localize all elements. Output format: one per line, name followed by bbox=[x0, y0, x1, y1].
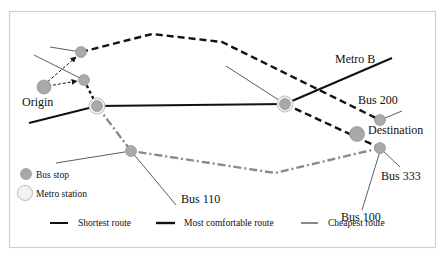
bus-stop-node bbox=[76, 47, 87, 58]
metro-station-node bbox=[89, 98, 105, 114]
svg-text:Shortest route: Shortest route bbox=[78, 218, 131, 228]
destination-node bbox=[350, 127, 365, 142]
svg-text:Most comfortable route: Most comfortable route bbox=[184, 218, 274, 228]
metro-station-node bbox=[277, 96, 293, 112]
bus-stop-node bbox=[375, 143, 386, 154]
bus-stop-icon bbox=[21, 169, 32, 180]
svg-text:Cheapest route: Cheapest route bbox=[328, 218, 385, 228]
bus-333-label: Bus 333 bbox=[381, 169, 421, 183]
bus-stop-node bbox=[79, 75, 90, 86]
destination-label: Destination bbox=[368, 123, 423, 137]
route-diagram: Origin Metro B Bus 200 Destination Bus 3… bbox=[0, 0, 444, 273]
metro-b-label: Metro B bbox=[335, 52, 375, 66]
origin-label: Origin bbox=[22, 95, 53, 109]
bus-stop-node bbox=[126, 146, 137, 157]
bus-110-label: Bus 110 bbox=[181, 192, 220, 206]
svg-text:Metro station: Metro station bbox=[36, 189, 87, 199]
bus-200-label: Bus 200 bbox=[358, 93, 398, 107]
svg-text:Bus stop: Bus stop bbox=[36, 170, 69, 180]
legend-bus-stop: Bus stop bbox=[21, 169, 70, 181]
origin-node bbox=[37, 80, 51, 94]
metro-station-icon bbox=[18, 186, 33, 201]
